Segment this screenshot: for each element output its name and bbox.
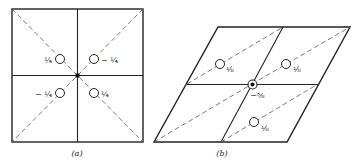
circle-bottom-right xyxy=(90,89,99,98)
label-top-right: − ¼ xyxy=(101,56,118,65)
circle-top-right xyxy=(90,55,99,64)
label-bottom-left: − ¼ xyxy=(35,90,52,99)
center-dot xyxy=(251,83,255,87)
circle-upper-left xyxy=(216,60,225,69)
figure-b-oblique-cell: ⅛ ⅛ −⅜ ⅛ (b) xyxy=(154,27,350,158)
circle-lower xyxy=(250,118,259,127)
figure-canvas: ¼ − ¼ − ¼ ¼ (a) ⅛ ⅛ −⅜ ⅛ (b) xyxy=(0,0,364,162)
dashed-diag-lower-left xyxy=(154,84,252,142)
caption-b: (b) xyxy=(216,149,227,158)
label-lower: ⅛ xyxy=(261,124,269,133)
label-upper-left: ⅛ xyxy=(226,65,234,74)
center-atom-marker xyxy=(76,74,80,78)
label-bottom-right: ¼ xyxy=(101,90,109,99)
caption-a: (a) xyxy=(71,149,82,158)
circle-top-left xyxy=(56,55,65,64)
circle-bottom-left xyxy=(56,89,65,98)
label-center: −⅜ xyxy=(250,91,265,100)
circle-upper-right xyxy=(282,60,291,69)
figure-a-square-cell: ¼ − ¼ − ¼ ¼ (a) xyxy=(12,9,143,158)
dashed-diag-upper-right xyxy=(252,27,350,84)
label-upper-right: ⅛ xyxy=(293,65,301,74)
label-top-left: ¼ xyxy=(44,56,52,65)
